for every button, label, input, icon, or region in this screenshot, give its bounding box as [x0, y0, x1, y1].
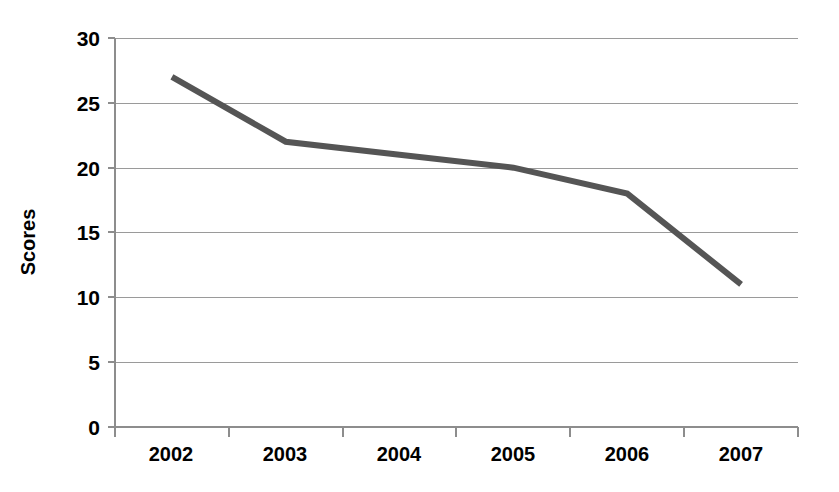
y-axis-title: Scores — [17, 209, 39, 276]
x-axis-ticks — [115, 427, 798, 437]
y-axis-tick-labels: 30 25 20 15 10 5 0 — [77, 27, 101, 439]
y-tick-label-25: 25 — [77, 92, 101, 115]
x-tick-label-2005: 2005 — [491, 443, 536, 465]
y-tick-label-5: 5 — [88, 351, 100, 374]
y-axis-ticks — [108, 38, 115, 427]
y-tick-label-10: 10 — [77, 286, 100, 309]
y-tick-label-30: 30 — [77, 27, 100, 50]
y-tick-label-20: 20 — [77, 157, 100, 180]
chart-container: 30 25 20 15 10 5 0 Scores 2002 2003 2004 — [0, 0, 839, 492]
x-tick-label-2006: 2006 — [605, 443, 650, 465]
x-tick-label-2002: 2002 — [149, 443, 194, 465]
x-tick-label-2003: 2003 — [263, 443, 308, 465]
x-tick-label-2004: 2004 — [377, 443, 422, 465]
x-tick-label-2007: 2007 — [719, 443, 764, 465]
line-chart: 30 25 20 15 10 5 0 Scores 2002 2003 2004 — [0, 0, 839, 492]
y-tick-label-0: 0 — [88, 416, 100, 439]
y-tick-label-15: 15 — [77, 221, 101, 244]
x-axis-tick-labels: 2002 2003 2004 2005 2006 2007 — [149, 443, 764, 465]
